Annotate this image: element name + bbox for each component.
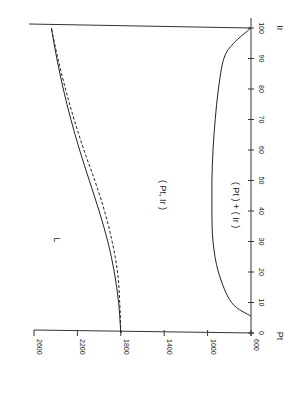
ir-tick-label: 80 [258, 85, 265, 93]
ir-tick-label: 70 [258, 116, 265, 124]
ir-tick-label: 20 [258, 268, 265, 276]
ir-100-line [29, 24, 251, 28]
value-tick-label: 2600 [36, 339, 43, 355]
label-L: L [52, 237, 62, 242]
ir-tick-label: 0 [258, 331, 265, 335]
ir-axis-label: Ir [275, 25, 285, 31]
chart: 6001000140018002200260001020304050607080… [0, 0, 301, 393]
value-tick-label: 600 [253, 339, 260, 351]
value-tick-label: 1400 [166, 339, 173, 355]
curve-pt-plus-ir [212, 28, 251, 316]
value-tick-label: 1800 [123, 339, 130, 355]
ir-tick-label: 60 [258, 146, 265, 154]
ir-tick-label: 100 [258, 22, 265, 34]
curve-pt-ir-dashed [51, 28, 120, 333]
label-pt-plus-ir: ( Pt ) + ( Ir ) [231, 182, 241, 228]
value-axis [34, 330, 254, 333]
ir-tick-label: 10 [258, 299, 265, 307]
value-tick-label: 1000 [210, 339, 217, 355]
ir-tick-label: 90 [258, 55, 265, 63]
ir-tick-label: 50 [258, 177, 265, 185]
value-tick-label: 2200 [79, 339, 86, 355]
label-pt-ir: ( Pt, Ir ) [158, 180, 168, 210]
ir-tick-label: 30 [258, 238, 265, 246]
pt-axis-label: Pt [275, 332, 285, 341]
ir-tick-label: 40 [258, 207, 265, 215]
